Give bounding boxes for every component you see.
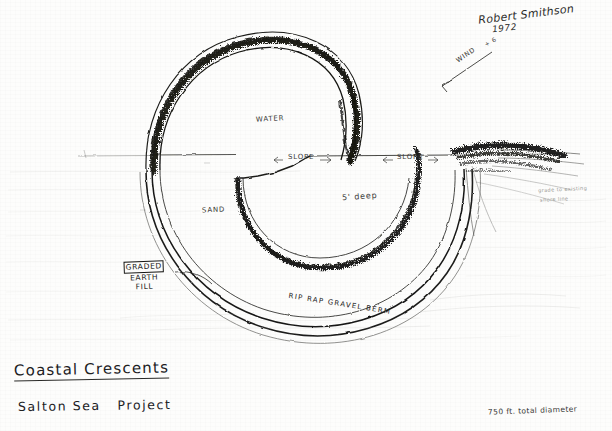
slope-label-right: SLOPE <box>397 153 423 161</box>
graded-earth-fill-label: GRADED EARTH FILL <box>123 260 164 292</box>
water-striations <box>6 171 606 340</box>
outer-crescent-lower-arc <box>140 168 480 343</box>
crescent-hook-tail <box>340 96 354 158</box>
page-title: Coastal Crescents <box>14 358 169 381</box>
fill-label-line3: FILL <box>124 281 165 292</box>
slope-label-left: SLOPE <box>288 153 314 161</box>
drawing-sheet: Robert Smithson 1972 WIND + 6 WATER SAND… <box>0 0 612 431</box>
sand-label: SAND <box>202 206 225 215</box>
outer-crescent-riprap <box>146 32 362 171</box>
water-label: WATER <box>256 114 285 123</box>
page-subtitle: Salton Sea Project <box>18 397 172 414</box>
ground-hatching <box>120 294 580 330</box>
inner-crescent-riprap <box>236 148 417 266</box>
